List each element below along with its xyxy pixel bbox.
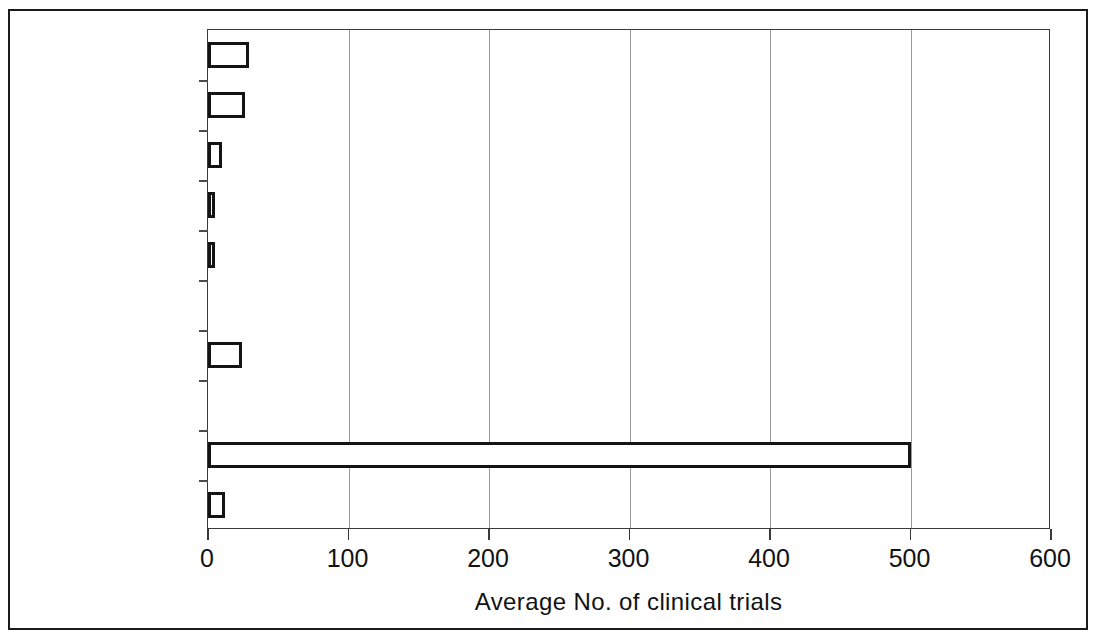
x-axis-tick-600 — [1050, 529, 1052, 540]
y-axis-tick — [199, 380, 208, 382]
x-axis-ticklabel-200: 200 — [443, 544, 533, 573]
y-axis-tick — [199, 280, 208, 282]
x-axis-tick-500 — [910, 529, 912, 540]
x-axis-tick-0 — [207, 529, 209, 540]
y-axis-tick — [199, 80, 208, 82]
bar-row: Estonia — [208, 330, 1049, 380]
bar-row: Venezuela — [208, 30, 1049, 80]
bar-tunisia — [208, 142, 222, 168]
x-axis-ticklabel-300: 300 — [584, 544, 674, 573]
bar-row: Netherlands — [208, 380, 1049, 430]
x-axis-ticklabel-500: 500 — [865, 544, 955, 573]
bar-row: Zimbabwe — [208, 180, 1049, 230]
y-axis-tick — [199, 430, 208, 432]
bar-row: Malaysia — [208, 480, 1049, 530]
x-axis-ticklabel-0: 0 — [162, 544, 252, 573]
x-axis-tick-400 — [769, 529, 771, 540]
bar-row: Cyprus — [208, 280, 1049, 330]
bar-zimbabwe — [208, 192, 215, 218]
y-axis-tick — [199, 230, 208, 232]
bar-row: Tunisia — [208, 130, 1049, 180]
bar-row: Australia — [208, 430, 1049, 480]
bar-estonia — [208, 342, 242, 368]
x-axis-tick-300 — [629, 529, 631, 540]
bar-malaysia — [208, 492, 225, 518]
x-axis-tick-200 — [488, 529, 490, 540]
bar-australia — [208, 442, 911, 468]
y-axis-tick — [199, 130, 208, 132]
bar-uganda — [208, 242, 215, 268]
bar-cuba — [208, 92, 245, 118]
bar-row: Cuba — [208, 80, 1049, 130]
x-axis-ticklabel-100: 100 — [303, 544, 393, 573]
y-axis-tick — [199, 180, 208, 182]
y-axis-tick — [199, 480, 208, 482]
plot-area: VenezuelaCubaTunisiaZimbabweUgandaCyprus… — [207, 29, 1050, 529]
y-axis-tick — [199, 330, 208, 332]
bar-venezuela — [208, 42, 249, 68]
x-axis-title: Average No. of clinical trials — [207, 588, 1050, 616]
x-axis-ticklabel-400: 400 — [724, 544, 814, 573]
bar-row: Uganda — [208, 230, 1049, 280]
x-axis-ticklabel-600: 600 — [1005, 544, 1095, 573]
chart-figure: VenezuelaCubaTunisiaZimbabweUgandaCyprus… — [0, 0, 1101, 638]
x-axis-tick-100 — [348, 529, 350, 540]
